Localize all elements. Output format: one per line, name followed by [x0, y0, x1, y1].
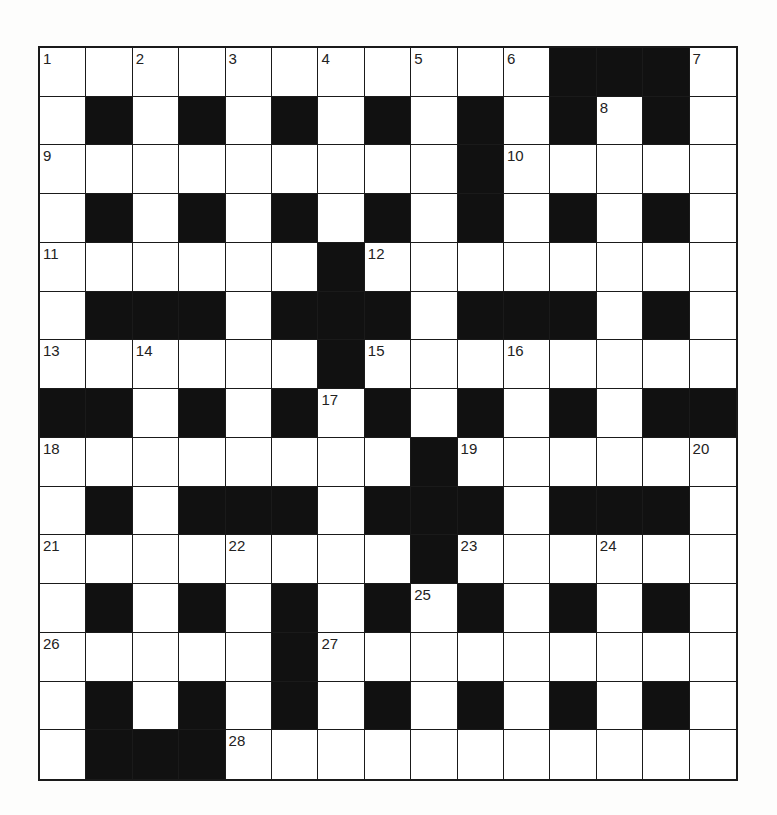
crossword-cell[interactable] — [86, 340, 132, 389]
crossword-cell[interactable] — [272, 438, 318, 487]
crossword-cell[interactable]: 26 — [40, 633, 86, 682]
crossword-cell[interactable] — [318, 145, 364, 194]
crossword-cell[interactable] — [550, 340, 596, 389]
crossword-cell[interactable] — [411, 292, 457, 341]
crossword-cell[interactable]: 11 — [40, 243, 86, 292]
crossword-cell[interactable] — [133, 487, 179, 536]
crossword-cell[interactable] — [458, 730, 504, 779]
crossword-cell[interactable] — [226, 145, 272, 194]
crossword-cell[interactable] — [504, 487, 550, 536]
crossword-cell[interactable] — [458, 340, 504, 389]
crossword-cell[interactable] — [504, 535, 550, 584]
crossword-cell[interactable] — [179, 48, 225, 97]
crossword-cell[interactable] — [226, 389, 272, 438]
crossword-cell[interactable] — [550, 438, 596, 487]
crossword-cell[interactable] — [318, 487, 364, 536]
crossword-cell[interactable] — [504, 584, 550, 633]
crossword-cell[interactable]: 10 — [504, 145, 550, 194]
crossword-cell[interactable] — [458, 48, 504, 97]
crossword-cell[interactable] — [690, 243, 736, 292]
crossword-cell[interactable]: 2 — [133, 48, 179, 97]
crossword-cell[interactable] — [272, 730, 318, 779]
crossword-cell[interactable] — [643, 438, 689, 487]
crossword-cell[interactable] — [133, 438, 179, 487]
crossword-cell[interactable] — [179, 340, 225, 389]
crossword-cell[interactable] — [690, 487, 736, 536]
crossword-cell[interactable] — [504, 97, 550, 146]
crossword-cell[interactable] — [40, 682, 86, 731]
crossword-cell[interactable] — [504, 194, 550, 243]
crossword-cell[interactable] — [179, 535, 225, 584]
crossword-cell[interactable] — [40, 194, 86, 243]
crossword-cell[interactable] — [690, 292, 736, 341]
crossword-cell[interactable] — [550, 730, 596, 779]
crossword-cell[interactable] — [690, 535, 736, 584]
crossword-cell[interactable] — [226, 243, 272, 292]
crossword-cell[interactable] — [550, 633, 596, 682]
crossword-cell[interactable] — [365, 145, 411, 194]
crossword-cell[interactable] — [226, 194, 272, 243]
crossword-cell[interactable] — [643, 340, 689, 389]
crossword-cell[interactable] — [643, 243, 689, 292]
crossword-cell[interactable] — [179, 438, 225, 487]
crossword-cell[interactable]: 18 — [40, 438, 86, 487]
crossword-cell[interactable] — [643, 535, 689, 584]
crossword-cell[interactable] — [365, 48, 411, 97]
crossword-cell[interactable] — [133, 145, 179, 194]
crossword-cell[interactable] — [86, 243, 132, 292]
crossword-cell[interactable] — [179, 145, 225, 194]
crossword-cell[interactable]: 6 — [504, 48, 550, 97]
crossword-cell[interactable]: 28 — [226, 730, 272, 779]
crossword-cell[interactable] — [597, 730, 643, 779]
crossword-cell[interactable] — [226, 97, 272, 146]
crossword-cell[interactable] — [226, 292, 272, 341]
crossword-cell[interactable] — [504, 389, 550, 438]
crossword-cell[interactable] — [318, 97, 364, 146]
crossword-cell[interactable] — [272, 48, 318, 97]
crossword-cell[interactable] — [458, 633, 504, 682]
crossword-cell[interactable] — [86, 633, 132, 682]
crossword-cell[interactable] — [226, 340, 272, 389]
crossword-cell[interactable]: 23 — [458, 535, 504, 584]
crossword-cell[interactable]: 5 — [411, 48, 457, 97]
crossword-cell[interactable] — [643, 145, 689, 194]
crossword-cell[interactable] — [550, 535, 596, 584]
crossword-cell[interactable] — [365, 730, 411, 779]
crossword-cell[interactable] — [411, 145, 457, 194]
crossword-cell[interactable] — [411, 389, 457, 438]
crossword-cell[interactable] — [318, 682, 364, 731]
crossword-cell[interactable] — [597, 438, 643, 487]
crossword-cell[interactable] — [40, 584, 86, 633]
crossword-cell[interactable] — [504, 730, 550, 779]
crossword-cell[interactable]: 19 — [458, 438, 504, 487]
crossword-cell[interactable]: 7 — [690, 48, 736, 97]
crossword-cell[interactable] — [411, 340, 457, 389]
crossword-cell[interactable] — [411, 97, 457, 146]
crossword-cell[interactable] — [40, 730, 86, 779]
crossword-cell[interactable] — [226, 682, 272, 731]
crossword-cell[interactable] — [272, 145, 318, 194]
crossword-cell[interactable] — [40, 97, 86, 146]
crossword-cell[interactable] — [318, 730, 364, 779]
crossword-cell[interactable]: 25 — [411, 584, 457, 633]
crossword-cell[interactable] — [133, 535, 179, 584]
crossword-cell[interactable] — [86, 438, 132, 487]
crossword-cell[interactable] — [690, 145, 736, 194]
crossword-cell[interactable] — [643, 730, 689, 779]
crossword-cell[interactable] — [690, 340, 736, 389]
crossword-cell[interactable]: 20 — [690, 438, 736, 487]
crossword-cell[interactable] — [365, 633, 411, 682]
crossword-cell[interactable] — [272, 535, 318, 584]
crossword-cell[interactable] — [272, 243, 318, 292]
crossword-cell[interactable] — [550, 145, 596, 194]
crossword-cell[interactable] — [226, 438, 272, 487]
crossword-cell[interactable] — [597, 292, 643, 341]
crossword-cell[interactable] — [86, 145, 132, 194]
crossword-cell[interactable] — [690, 633, 736, 682]
crossword-cell[interactable] — [365, 438, 411, 487]
crossword-cell[interactable] — [226, 584, 272, 633]
crossword-cell[interactable] — [690, 97, 736, 146]
crossword-cell[interactable] — [133, 243, 179, 292]
crossword-cell[interactable] — [133, 194, 179, 243]
crossword-cell[interactable] — [133, 633, 179, 682]
